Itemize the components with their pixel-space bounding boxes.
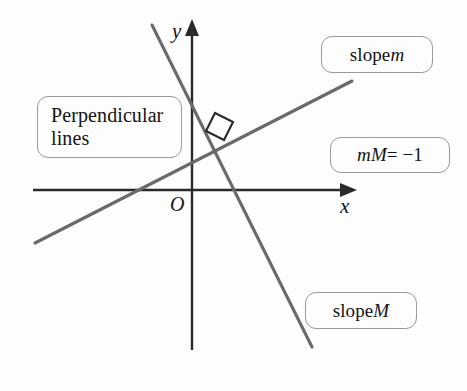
x-axis	[33, 183, 357, 197]
slope-M-line	[152, 25, 312, 347]
y-axis-arrowhead-icon	[185, 19, 199, 36]
right-angle-marker-icon	[206, 113, 233, 140]
callout-slope-M-text: slope	[333, 300, 374, 322]
y-axis	[185, 19, 199, 350]
callout-slope-product: mM = −1	[330, 137, 450, 173]
callout-product-symbols: mM	[357, 144, 387, 166]
callout-slope-m-symbol: m	[390, 44, 404, 66]
callout-product-rest: = −1	[387, 144, 423, 166]
callout-slope-M-symbol: M	[373, 300, 389, 322]
y-axis-label: y	[172, 21, 181, 42]
origin-label: O	[170, 194, 184, 214]
x-axis-label: x	[340, 196, 349, 217]
callout-slope-M: slope M	[305, 292, 417, 329]
callout-perpendicular-lines: Perpendicular lines	[37, 96, 182, 158]
callout-slope-m-text: slope	[350, 44, 391, 66]
perpendicular-lines-figure: y x O Perpendicular lines slope m mM = −…	[0, 0, 467, 391]
callout-slope-m: slope m	[321, 36, 433, 73]
